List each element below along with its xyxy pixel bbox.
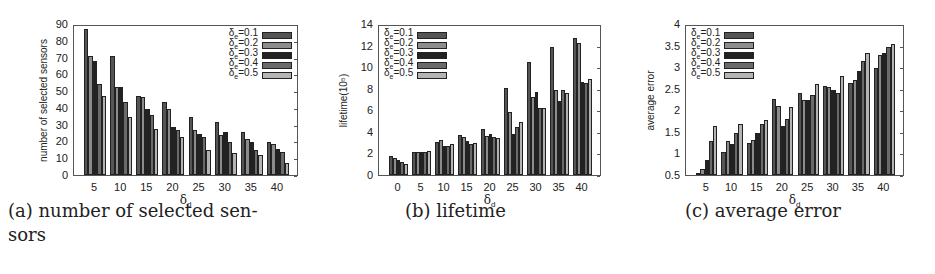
x-tick-label: 10 bbox=[719, 182, 743, 193]
x-tick-label: 5 bbox=[694, 182, 718, 193]
y-tick-mark bbox=[294, 142, 297, 143]
y-tick-mark bbox=[294, 176, 297, 177]
x-tick-label: 15 bbox=[455, 182, 479, 193]
legend-swatch bbox=[262, 32, 292, 39]
x-tick-label: 20 bbox=[478, 182, 502, 193]
y-axis-label: average error bbox=[645, 45, 656, 155]
x-tick-label: 25 bbox=[187, 182, 211, 193]
y-tick-mark bbox=[900, 176, 903, 177]
x-tick-label: 30 bbox=[524, 182, 548, 193]
x-tick-label: 25 bbox=[795, 182, 819, 193]
bar bbox=[789, 107, 793, 175]
y-tick-mark bbox=[597, 111, 600, 112]
y-tick-mark bbox=[900, 68, 903, 69]
y-tick-mark bbox=[900, 90, 903, 91]
y-tick-mark bbox=[900, 154, 903, 155]
x-tick-label: 40 bbox=[570, 182, 594, 193]
bar bbox=[519, 122, 523, 175]
y-tick-mark bbox=[294, 75, 297, 76]
y-tick-mark bbox=[597, 90, 600, 91]
x-tick-label: 20 bbox=[770, 182, 794, 193]
y-tick-mark bbox=[597, 47, 600, 48]
bar bbox=[102, 96, 106, 175]
bar bbox=[285, 163, 289, 175]
legend-swatch bbox=[417, 62, 447, 69]
x-axis-label: δd bbox=[780, 193, 810, 209]
y-tick-mark bbox=[294, 42, 297, 43]
y-tick-label: 0.5 bbox=[650, 170, 680, 181]
x-tick-label: 30 bbox=[213, 182, 237, 193]
x-axis-label: δd bbox=[171, 193, 201, 209]
legend-item: δe=0.5 bbox=[691, 70, 754, 80]
y-tick-label: 4 bbox=[650, 19, 680, 30]
bar bbox=[542, 108, 546, 175]
legend-swatch bbox=[724, 52, 754, 59]
y-tick-label: 14 bbox=[343, 19, 373, 30]
bar bbox=[865, 53, 869, 175]
caption-c: (c) average error bbox=[685, 199, 841, 223]
bar bbox=[180, 137, 184, 175]
y-tick-mark bbox=[294, 92, 297, 93]
legend-swatch bbox=[417, 72, 447, 79]
y-tick-label: 0 bbox=[343, 170, 373, 181]
bar bbox=[258, 155, 262, 175]
legend-item: δe=0.5 bbox=[384, 70, 447, 80]
y-tick-mark bbox=[294, 126, 297, 127]
y-tick-mark bbox=[900, 25, 903, 26]
y-tick-mark bbox=[900, 111, 903, 112]
bar bbox=[427, 151, 431, 175]
y-axis-label: lifetime(10⁵) bbox=[338, 45, 349, 155]
x-axis-label: δd bbox=[475, 193, 505, 209]
y-tick-mark bbox=[597, 25, 600, 26]
bar bbox=[404, 164, 408, 175]
bar bbox=[450, 144, 454, 175]
x-tick-label: 15 bbox=[744, 182, 768, 193]
bar bbox=[496, 138, 500, 175]
bar bbox=[815, 84, 819, 175]
legend-swatch bbox=[724, 42, 754, 49]
legend-swatch bbox=[724, 72, 754, 79]
bar bbox=[738, 124, 742, 176]
y-tick-mark bbox=[294, 109, 297, 110]
x-tick-label: 40 bbox=[265, 182, 289, 193]
legend-swatch bbox=[724, 32, 754, 39]
y-tick-mark bbox=[294, 59, 297, 60]
legend-swatch bbox=[417, 52, 447, 59]
bar bbox=[473, 143, 477, 175]
x-tick-label: 30 bbox=[821, 182, 845, 193]
legend: δe=0.1δe=0.2δe=0.3δe=0.4δe=0.5 bbox=[691, 30, 754, 80]
x-tick-label: 10 bbox=[432, 182, 456, 193]
caption-a: (a) number of selected sen- sors bbox=[8, 199, 268, 247]
y-tick-mark bbox=[597, 68, 600, 69]
x-tick-label: 35 bbox=[846, 182, 870, 193]
caption-a-line-2: sors bbox=[8, 223, 268, 247]
legend-swatch bbox=[262, 62, 292, 69]
bar bbox=[128, 117, 132, 175]
y-tick-mark bbox=[900, 133, 903, 134]
x-tick-label: 20 bbox=[160, 182, 184, 193]
bar bbox=[154, 129, 158, 175]
x-tick-label: 0 bbox=[386, 182, 410, 193]
bar bbox=[588, 79, 592, 175]
x-tick-label: 25 bbox=[501, 182, 525, 193]
x-tick-label: 10 bbox=[108, 182, 132, 193]
y-tick-mark bbox=[597, 133, 600, 134]
y-axis-label: number of selected sensors bbox=[38, 25, 49, 175]
legend: δe=0.1δe=0.2δe=0.3δe=0.4δe=0.5 bbox=[384, 30, 447, 80]
bar bbox=[764, 120, 768, 175]
legend-swatch bbox=[262, 52, 292, 59]
bar bbox=[206, 150, 210, 175]
y-tick-mark bbox=[597, 154, 600, 155]
bar bbox=[840, 76, 844, 175]
bar bbox=[565, 93, 569, 175]
legend-swatch bbox=[262, 42, 292, 49]
x-tick-label: 35 bbox=[239, 182, 263, 193]
legend-swatch bbox=[724, 62, 754, 69]
legend-swatch bbox=[262, 72, 292, 79]
x-tick-label: 5 bbox=[82, 182, 106, 193]
y-tick-mark bbox=[294, 25, 297, 26]
legend-label: δe=0.5 bbox=[384, 68, 413, 82]
bar bbox=[891, 44, 895, 175]
x-tick-label: 35 bbox=[547, 182, 571, 193]
bar bbox=[232, 153, 236, 175]
